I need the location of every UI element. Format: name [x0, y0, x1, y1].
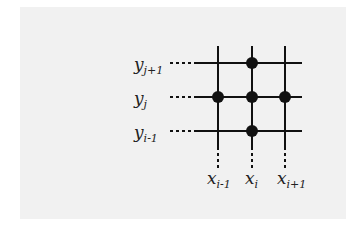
node [246, 125, 258, 137]
y-label-i-minus-1: yi-1 [133, 122, 158, 145]
x-label-i: xi [245, 168, 258, 191]
y-label-j: yj [133, 88, 148, 111]
node [246, 91, 258, 103]
x-label-i-plus-1: xi+1 [277, 168, 306, 191]
stencil-diagram: yj+1 yj yi-1 xi-1 xi xi+1 [0, 0, 363, 228]
x-label-i-minus-1: xi-1 [207, 168, 231, 191]
y-label-j-plus-1: yj+1 [133, 54, 163, 77]
dashed-extensions [170, 63, 285, 168]
node [279, 91, 291, 103]
node [246, 57, 258, 69]
node [212, 91, 224, 103]
